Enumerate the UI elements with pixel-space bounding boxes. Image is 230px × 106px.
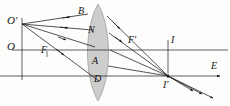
label-o: O [7,41,15,52]
label-i-prime: I' [163,80,168,90]
arrowhead-ray-N [60,27,68,28]
arrowhead-refracted-B [113,22,120,29]
exit-ray-3 [168,76,213,98]
label-f: F [41,45,47,55]
label-b: B [78,6,84,16]
label-f-prime: F' [128,35,136,45]
biconvex-lens-body [88,4,109,101]
label-i: I [171,35,174,45]
ray-diagram-canvas [0,0,230,106]
label-e: E [211,61,217,71]
exit-ray-bundle [168,76,213,98]
incident-ray-arrowheads [56,17,70,55]
refracted-ray-arrowheads [113,22,122,42]
refracted-ray-from-A [110,50,168,76]
label-n: N [88,25,95,35]
label-a: A [92,56,98,66]
optics-ray-diagram-figure: O' O B N A D F F' I I' E [0,0,230,106]
label-o-prime: O' [7,15,17,26]
label-d: D [94,74,101,84]
arrowhead-ray-B [62,17,70,18]
arrowhead-refracted-N [115,37,122,42]
